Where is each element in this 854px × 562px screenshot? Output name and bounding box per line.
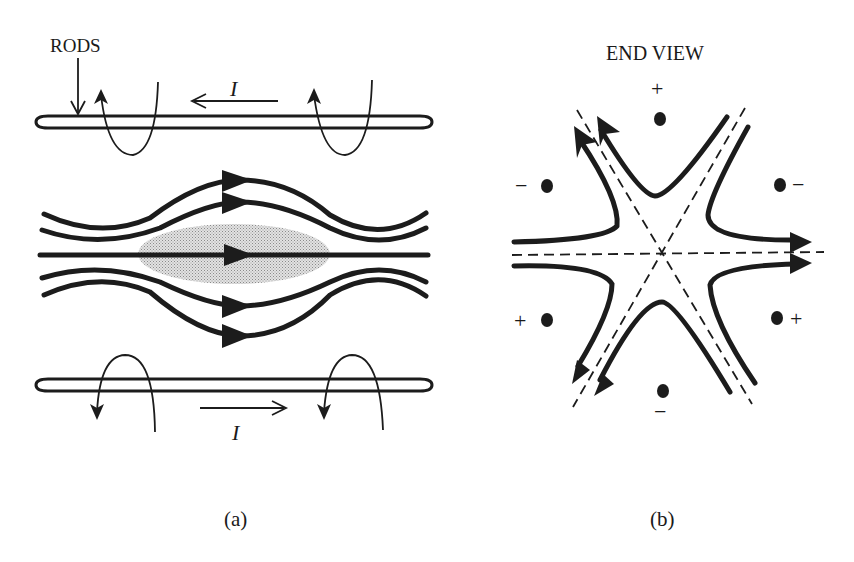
top-current-label: I — [229, 76, 239, 101]
pole-bottom: − — [654, 384, 669, 424]
panel-a: RODS I — [36, 35, 432, 531]
pole-sign-bottom: − — [654, 399, 666, 424]
bottom-current-arrow-icon — [200, 401, 286, 415]
panel-b: END VIEW — [512, 42, 824, 531]
pole-sign-lower-left: + — [514, 308, 526, 333]
pole-dot-bottom — [657, 384, 669, 398]
end-view-title: END VIEW — [606, 42, 704, 64]
field-line-top — [597, 116, 727, 196]
pole-dot-upper-right — [774, 178, 786, 192]
pole-top: + — [651, 76, 666, 126]
pole-dot-lower-right — [771, 311, 783, 325]
pole-lower-right: + — [771, 306, 802, 331]
pole-upper-right: − — [774, 172, 804, 197]
pole-sign-top: + — [651, 76, 663, 101]
pole-dot-upper-left — [541, 179, 553, 193]
field-line-bottom — [594, 302, 730, 396]
rods-label: RODS — [50, 35, 101, 56]
top-rod — [36, 116, 432, 128]
pole-lower-left: + — [514, 308, 553, 333]
pole-sign-lower-right: + — [790, 306, 802, 331]
caption-a: (a) — [224, 507, 247, 531]
separatrix-dashed-lines — [512, 108, 824, 407]
field-lines — [40, 170, 428, 348]
bottom-current-label: I — [231, 420, 241, 445]
pole-upper-left: − — [515, 173, 553, 198]
bottom-rod-field-loop-left — [90, 355, 155, 432]
caption-b: (b) — [650, 507, 675, 531]
rods-pointer-arrow-icon — [71, 58, 85, 114]
pole-sign-upper-left: − — [515, 173, 527, 198]
pole-dot-top — [654, 112, 666, 126]
figure-canvas: RODS I — [0, 0, 854, 562]
bottom-rod — [36, 379, 432, 391]
pole-sign-upper-right: − — [792, 172, 804, 197]
pole-dot-lower-left — [541, 313, 553, 327]
field-line-upper-left — [514, 126, 617, 242]
